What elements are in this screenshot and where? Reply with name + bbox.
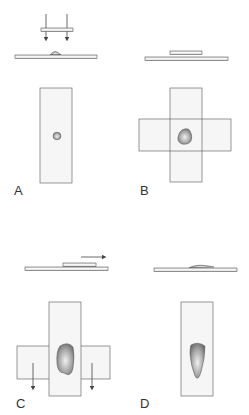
specimen-blob xyxy=(57,344,74,375)
panel-c xyxy=(17,257,110,396)
coverslip-side xyxy=(41,28,73,32)
slide-side xyxy=(154,268,237,272)
panel-a xyxy=(15,14,97,183)
panel-d xyxy=(154,265,237,396)
drop-top xyxy=(53,132,61,140)
slide-side xyxy=(15,55,97,59)
smear-side xyxy=(189,265,214,268)
panel-b xyxy=(139,51,231,182)
slide-side xyxy=(25,267,108,271)
diagram-canvas xyxy=(0,0,249,415)
drop-side xyxy=(50,52,61,56)
slide-side xyxy=(145,57,228,61)
panel-label-c: C xyxy=(16,397,25,410)
coverslip-side xyxy=(63,263,96,267)
panel-label-a: A xyxy=(14,184,23,197)
panel-label-d: D xyxy=(140,397,149,410)
coverslip-side xyxy=(170,51,202,55)
panel-label-b: B xyxy=(140,184,149,197)
down-arrow-icon xyxy=(46,14,67,39)
